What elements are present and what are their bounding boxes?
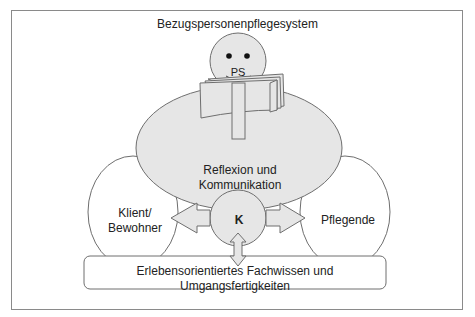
hub-label: K xyxy=(224,213,254,228)
bottom-box-label: Erlebensorientiertes Fachwissen und Umga… xyxy=(84,264,386,294)
diagram-title: Bezugspersonenpflegesystem xyxy=(0,17,475,32)
client-label: Klient/ Bewohner xyxy=(95,206,175,236)
client-label-line1: Klient/ xyxy=(95,206,175,221)
center-label-line2: Kommunikation xyxy=(180,178,300,193)
center-label-line1: Reflexion und xyxy=(180,163,300,178)
nurse-label: Pflegende xyxy=(308,213,388,228)
head-label: PS xyxy=(223,65,253,80)
client-label-line2: Bewohner xyxy=(95,221,175,236)
arrow-right-icon xyxy=(266,203,305,233)
left-eye-icon xyxy=(226,53,232,59)
center-label: Reflexion und Kommunikation xyxy=(180,163,300,193)
right-eye-icon xyxy=(244,53,250,59)
